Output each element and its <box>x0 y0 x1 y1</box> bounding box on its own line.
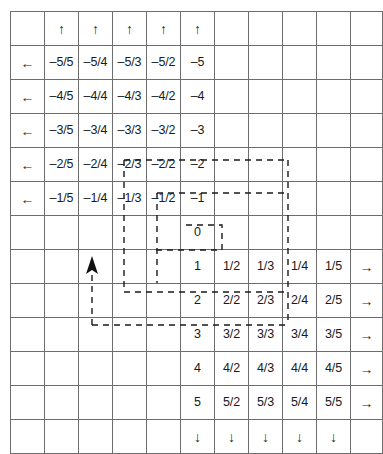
grid-cell <box>113 420 147 454</box>
grid-cell: 3/5 <box>317 318 351 352</box>
grid-cell-zero: 0 <box>181 216 215 250</box>
cell-label: –4/4 <box>79 90 112 103</box>
grid-cell <box>45 386 79 420</box>
grid-cell: → <box>351 352 383 386</box>
down-arrow-icon: ↓ <box>249 430 282 444</box>
grid-cell: 3/3 <box>249 318 283 352</box>
grid-cell: 3 <box>181 318 215 352</box>
grid-cell <box>79 216 113 250</box>
grid-cell <box>147 420 181 454</box>
cell-label: –3 <box>181 124 214 137</box>
grid-cell: ← <box>11 182 45 216</box>
table-row: ← –5/5 –5/4 –5/3 –5/2 –5 <box>11 46 383 80</box>
grid-cell <box>283 148 317 182</box>
grid-cell <box>113 352 147 386</box>
grid-cell <box>215 216 249 250</box>
cell-label: –5/4 <box>79 56 112 69</box>
grid-cell <box>283 12 317 46</box>
grid-cell: ↑ <box>79 12 113 46</box>
grid-cell: ← <box>11 46 45 80</box>
grid-cell: 2/3 <box>249 284 283 318</box>
cell-label: 4/4 <box>283 362 316 375</box>
table-row: ← –1/5 –1/4 –1/3 –1/2 –1 <box>11 182 383 216</box>
cell-label: 5/2 <box>215 396 248 409</box>
cell-label: 2 <box>181 294 214 307</box>
grid-cell <box>113 250 147 284</box>
grid-cell: 4/2 <box>215 352 249 386</box>
grid-cell <box>249 80 283 114</box>
grid-cell: –3 <box>181 114 215 148</box>
grid-cell <box>317 182 351 216</box>
grid-cell: –1/5 <box>45 182 79 216</box>
grid-cell <box>351 148 383 182</box>
grid-cell: 1/2 <box>215 250 249 284</box>
grid-cell: 1/5 <box>317 250 351 284</box>
grid-cell: –1 <box>181 182 215 216</box>
cell-label: –4/5 <box>45 90 78 103</box>
grid-cell: 4/5 <box>317 352 351 386</box>
up-arrow-icon: ↑ <box>147 22 180 36</box>
cell-label: 1 <box>181 260 214 273</box>
cell-label: –2/3 <box>113 158 146 171</box>
grid-cell <box>317 216 351 250</box>
grid-cell: –2/3 <box>113 148 147 182</box>
grid-cell: ↑ <box>113 12 147 46</box>
grid-cell <box>11 250 45 284</box>
grid-cell <box>215 148 249 182</box>
up-arrow-icon: ↑ <box>79 22 112 36</box>
down-arrow-icon: ↓ <box>283 430 316 444</box>
grid-cell: –5/2 <box>147 46 181 80</box>
grid-cell <box>249 12 283 46</box>
grid-cell <box>317 114 351 148</box>
grid-cell: –4 <box>181 80 215 114</box>
grid-cell <box>215 182 249 216</box>
grid-cell <box>45 284 79 318</box>
grid-cell <box>113 216 147 250</box>
grid-cell <box>249 46 283 80</box>
grid-cell <box>215 114 249 148</box>
grid-cell <box>283 216 317 250</box>
grid-cell <box>283 80 317 114</box>
grid-cell: 3/4 <box>283 318 317 352</box>
cell-label: 2/4 <box>283 294 316 307</box>
grid-cell: 4/4 <box>283 352 317 386</box>
table-row: ← –4/5 –4/4 –4/3 –4/2 –4 <box>11 80 383 114</box>
grid-cell: –4/5 <box>45 80 79 114</box>
grid-cell <box>79 420 113 454</box>
grid-cell: –5/3 <box>113 46 147 80</box>
grid-cell <box>79 352 113 386</box>
grid-cell: → <box>351 386 383 420</box>
table-row: 4 4/2 4/3 4/4 4/5 → <box>11 352 383 386</box>
cell-label: –2 <box>181 158 214 171</box>
cell-label: –4/3 <box>113 90 146 103</box>
left-arrow-icon: ← <box>11 158 44 172</box>
table-row: 1 1/2 1/3 1/4 1/5 → <box>11 250 383 284</box>
cell-label: –2/4 <box>79 158 112 171</box>
right-arrow-icon: → <box>351 362 382 376</box>
grid-cell: 1 <box>181 250 215 284</box>
grid-cell <box>79 284 113 318</box>
cell-label: –1/2 <box>147 192 180 205</box>
grid-cell: ← <box>11 148 45 182</box>
grid-cell <box>79 386 113 420</box>
grid-cell: 3/2 <box>215 318 249 352</box>
grid-cell <box>215 80 249 114</box>
cell-label: –5/5 <box>45 56 78 69</box>
grid-cell: 4/3 <box>249 352 283 386</box>
grid-cell <box>147 386 181 420</box>
grid-cell: 1/4 <box>283 250 317 284</box>
grid-cell: –2/4 <box>79 148 113 182</box>
grid-cell <box>249 216 283 250</box>
cell-label: –1/3 <box>113 192 146 205</box>
cell-label: –5/2 <box>147 56 180 69</box>
cell-label: –1 <box>181 192 214 205</box>
cell-label: 2/3 <box>249 294 282 307</box>
grid-container: ↑ ↑ ↑ ↑ ↑ ← –5/5 –5/4 –5/3 –5/2 <box>10 11 371 440</box>
grid-cell <box>147 250 181 284</box>
grid-cell <box>147 216 181 250</box>
grid-cell <box>45 250 79 284</box>
grid-cell: –1/3 <box>113 182 147 216</box>
down-arrow-icon: ↓ <box>181 430 214 444</box>
grid-cell: ↓ <box>317 420 351 454</box>
table-row: 5 5/2 5/3 5/4 5/5 → <box>11 386 383 420</box>
